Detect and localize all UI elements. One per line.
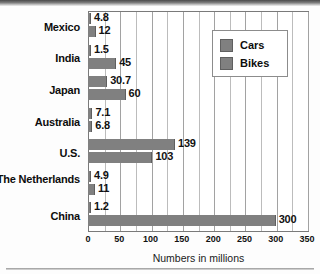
- bar-cars: [88, 13, 91, 24]
- chart-legend: Cars Bikes: [212, 30, 288, 77]
- category-label: Japan: [49, 84, 80, 96]
- bar-bikes: [88, 215, 276, 226]
- bar-value-label: 60: [129, 88, 141, 99]
- bar-bikes: [88, 121, 92, 132]
- category-axis-labels: MexicoIndiaJapanAustraliaU.S.The Netherl…: [0, 11, 85, 232]
- legend-item-bikes: Bikes: [220, 54, 287, 72]
- category-label: Australia: [35, 116, 80, 128]
- category-label: Mexico: [44, 21, 80, 33]
- category-label: The Netherlands: [0, 173, 80, 185]
- bar-bikes: [88, 184, 95, 195]
- bar-group: 7.16.8: [88, 106, 309, 138]
- page-rule-bottom: [6, 268, 314, 270]
- x-axis-title: Numbers in millions: [88, 252, 309, 264]
- value-axis-ticks: 050100150200250300350: [88, 234, 309, 248]
- legend-label-bikes: Bikes: [240, 57, 269, 70]
- x-tick-label: 150: [174, 234, 189, 244]
- bar-value-label: 4.9: [94, 170, 109, 181]
- bar-cars: [88, 108, 92, 119]
- bar-group: 4.911: [88, 169, 309, 201]
- category-label: U.S.: [59, 147, 80, 159]
- bar-value-label: 11: [98, 183, 109, 194]
- bar-bikes: [88, 58, 116, 69]
- x-tick-label: 250: [237, 234, 252, 244]
- bar-chart-figure: MexicoIndiaJapanAustraliaU.S.The Netherl…: [0, 0, 320, 274]
- bar-value-label: 300: [279, 214, 297, 225]
- bar-group: 1.2300: [88, 200, 309, 232]
- bar-bikes: [88, 152, 152, 163]
- bar-value-label: 139: [178, 138, 196, 149]
- bar-value-label: 4.8: [94, 12, 109, 23]
- x-tick-label: 200: [206, 234, 221, 244]
- bar-cars: [88, 202, 91, 213]
- legend-label-cars: Cars: [240, 39, 264, 52]
- x-tick-label: 100: [143, 234, 158, 244]
- bar-group: 30.760: [88, 74, 309, 106]
- bar-value-label: 30.7: [110, 75, 131, 86]
- legend-item-cars: Cars: [220, 36, 287, 54]
- bar-value-label: 45: [119, 57, 131, 68]
- x-tick-label: 50: [114, 234, 124, 244]
- bar-value-label: 7.1: [95, 107, 110, 118]
- bar-value-label: 103: [155, 151, 173, 162]
- legend-swatch-bikes-icon: [220, 57, 233, 70]
- x-tick-label: 300: [268, 234, 283, 244]
- legend-swatch-cars-icon: [220, 39, 233, 52]
- bar-cars: [88, 171, 91, 182]
- x-tick-label: 0: [85, 234, 90, 244]
- x-tick-label: 350: [299, 234, 314, 244]
- bar-value-label: 12: [99, 25, 111, 36]
- bar-cars: [88, 45, 91, 56]
- bar-bikes: [88, 89, 126, 100]
- bar-group: 139103: [88, 137, 309, 169]
- category-label: India: [55, 52, 80, 64]
- bar-bikes: [88, 26, 96, 37]
- category-label: China: [50, 210, 80, 222]
- bar-value-label: 1.2: [94, 201, 109, 212]
- bar-cars: [88, 139, 175, 150]
- bar-value-label: 6.8: [95, 120, 110, 131]
- bar-value-label: 1.5: [94, 44, 109, 55]
- bar-cars: [88, 76, 107, 87]
